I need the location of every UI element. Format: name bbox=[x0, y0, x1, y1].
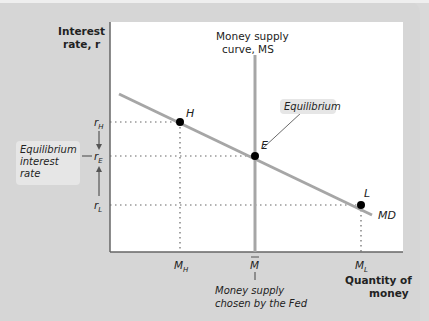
point-l bbox=[357, 201, 365, 209]
point-e bbox=[251, 152, 259, 160]
tick-mh: MH bbox=[174, 259, 188, 276]
tick-re: rE bbox=[94, 150, 103, 167]
tick-rh: rH bbox=[94, 116, 104, 133]
x-axis-label-1: Quantity of bbox=[345, 274, 412, 286]
point-l-label: L bbox=[364, 188, 370, 200]
eq-rate-2: interest bbox=[20, 156, 59, 168]
equilibrium-leader bbox=[262, 112, 302, 149]
guide-lines bbox=[110, 122, 361, 252]
y-axis-label-2-text: rate, r bbox=[63, 38, 100, 50]
point-e-label: E bbox=[261, 140, 268, 152]
eq-rate-1: Equilibrium bbox=[20, 144, 77, 156]
y-axis-label-1: Interest bbox=[58, 25, 105, 37]
fed-label-2: chosen by the Fed bbox=[215, 298, 307, 310]
ms-label-1: Money supply bbox=[216, 30, 289, 42]
ms-label-2: curve, MS bbox=[222, 43, 274, 55]
point-h-label: H bbox=[186, 108, 194, 120]
equilibrium-callout: Equilibrium bbox=[280, 99, 336, 114]
tick-mbar: M bbox=[250, 259, 259, 271]
eq-rate-3: rate bbox=[20, 168, 40, 180]
x-axis-label-2: money bbox=[369, 287, 409, 299]
fed-label-1: Money supply bbox=[215, 285, 284, 297]
figure-panel: Interest rate, r Money supply curve, MS … bbox=[0, 0, 429, 321]
equilibrium-callout-text: Equilibrium bbox=[284, 101, 341, 113]
md-label: MD bbox=[378, 210, 396, 222]
eq-rate-callout: Equilibrium interest rate bbox=[16, 141, 80, 185]
tick-rl: rL bbox=[94, 199, 102, 216]
point-h bbox=[176, 118, 184, 126]
y-axis-label-2: rate, r bbox=[63, 38, 100, 50]
